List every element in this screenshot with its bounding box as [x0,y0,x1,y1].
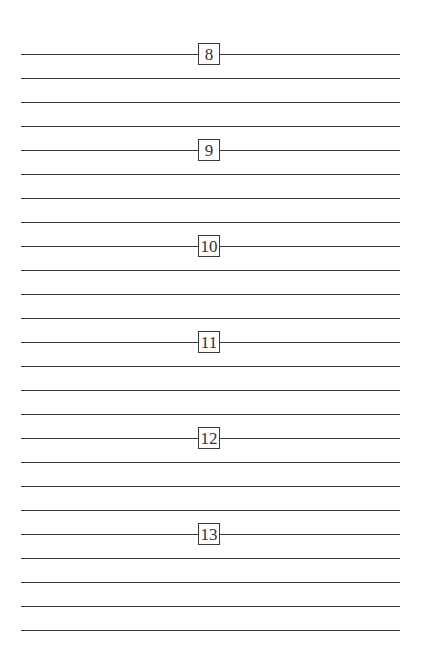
writing-line [21,462,400,463]
writing-line [21,510,400,511]
writing-line [21,222,400,223]
section-number-box: 11 [198,331,220,353]
writing-line [21,270,400,271]
writing-line [21,174,400,175]
section-number-box: 8 [198,43,220,65]
section-number-box: 9 [198,139,220,161]
writing-line [21,102,400,103]
writing-line [21,318,400,319]
writing-line [21,630,400,631]
section-number-box: 10 [198,235,220,257]
section-number-box: 13 [198,523,220,545]
writing-line [21,390,400,391]
writing-line [21,78,400,79]
writing-line [21,558,400,559]
writing-line [21,126,400,127]
writing-line [21,606,400,607]
writing-line [21,486,400,487]
writing-line [21,414,400,415]
writing-line [21,198,400,199]
writing-line [21,582,400,583]
section-number-box: 12 [198,427,220,449]
writing-line [21,366,400,367]
writing-line [21,294,400,295]
